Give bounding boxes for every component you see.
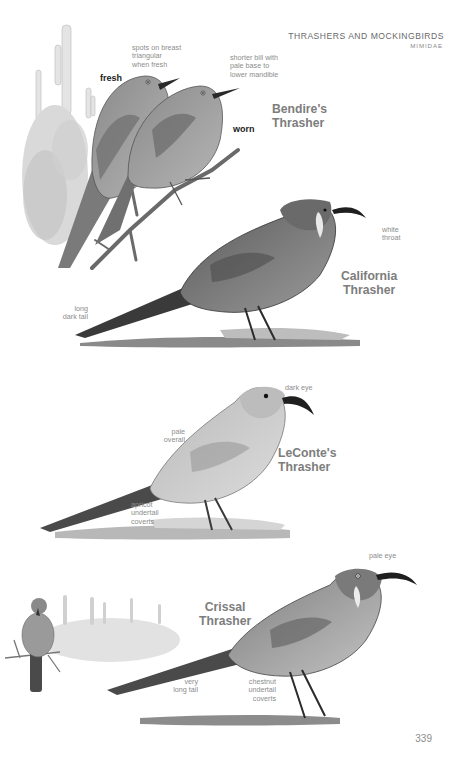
annotation-very-long-tail: very long tail: [160, 678, 198, 695]
chapter-title: THRASHERS AND MOCKINGBIRDS: [288, 31, 444, 41]
crissal-inset-bird: [5, 598, 60, 692]
crissal-ground: [140, 715, 340, 726]
bendires-background-cactus: [36, 25, 95, 120]
lecontes-thrasher: [40, 387, 314, 532]
tag-fresh: fresh: [100, 73, 122, 83]
family-name: MIMIDAE: [410, 42, 443, 49]
page-number: 339: [415, 733, 432, 744]
annotation-long-dark-tail: long dark tail: [52, 305, 88, 322]
crissal-inset-habitat: [40, 595, 180, 662]
species-heading-lecontes: LeConte's Thrasher: [278, 447, 336, 474]
species-heading-crissal: Crissal Thrasher: [199, 601, 251, 628]
species-heading-california: California Thrasher: [341, 270, 397, 297]
california-ground: [80, 328, 360, 348]
species-heading-bendires: Bendire's Thrasher: [272, 103, 327, 130]
annotation-dark-eye: dark eye: [285, 384, 313, 392]
annotation-pale-eye: pale eye: [369, 552, 396, 560]
plate-illustrations: [0, 0, 456, 767]
annotation-white-throat: white throat: [382, 226, 400, 243]
lecontes-ground: [55, 518, 290, 540]
annotation-shorter-bill: shorter bill with pale base to lower man…: [230, 54, 278, 79]
annotation-pale-overall: pale overall: [150, 428, 185, 445]
annotation-spots-on-breast: spots on breast triangular when fresh: [132, 44, 181, 69]
annotation-chestnut-undertail-coverts: chestnut undertail coverts: [238, 678, 276, 703]
annotation-apricot-undertail-coverts: apricot undertail coverts: [131, 501, 159, 526]
tag-worn: worn: [233, 124, 255, 134]
